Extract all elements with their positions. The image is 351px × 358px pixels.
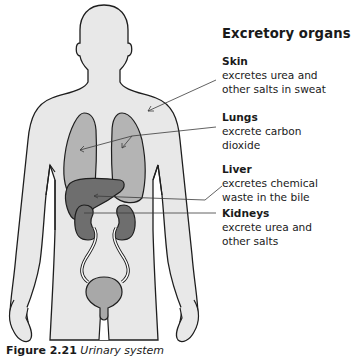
label-skin: Skin excretes urea and other salts in sw… [222, 54, 326, 97]
label-name: Lungs [222, 110, 302, 124]
label-name: Kidneys [222, 206, 312, 220]
diagram-title: Excretory organs [222, 26, 351, 41]
label-desc-line: waste in the bile [222, 190, 318, 204]
label-desc-line: excretes chemical [222, 176, 318, 190]
label-liver: Liver excretes chemical waste in the bil… [222, 162, 318, 205]
label-desc-line: excrete carbon [222, 124, 302, 138]
label-name: Skin [222, 54, 326, 68]
label-lungs: Lungs excrete carbon dioxide [222, 110, 302, 153]
figure-caption: Figure 2.21 Urinary system [6, 344, 164, 357]
label-desc-line: other salts [222, 234, 312, 248]
label-desc-line: dioxide [222, 138, 302, 152]
label-desc-line: other salts in sweat [222, 82, 326, 96]
skin-leader [148, 80, 216, 111]
caption-title: Urinary system [80, 344, 164, 357]
caption-figure-number: Figure 2.21 [6, 344, 77, 357]
label-name: Liver [222, 162, 318, 176]
label-desc-line: excrete urea and [222, 220, 312, 234]
label-desc-line: excretes urea and [222, 68, 326, 82]
label-kidneys: Kidneys excrete urea and other salts [222, 206, 312, 249]
